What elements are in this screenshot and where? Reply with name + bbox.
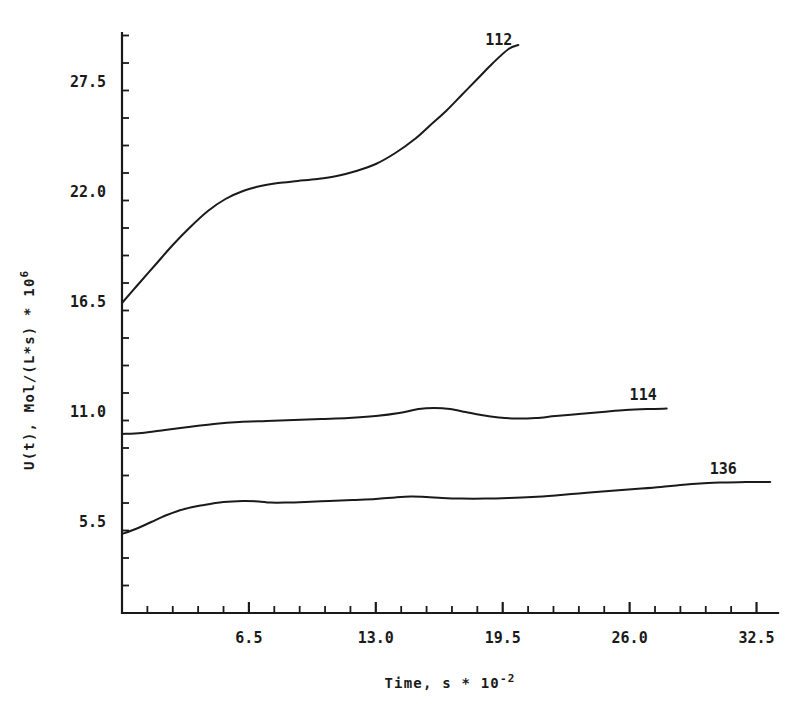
x-tick-label: 32.5	[738, 629, 774, 647]
data-series-group	[122, 45, 770, 534]
x-tick-label: 6.5	[235, 629, 262, 647]
x-axis-title-exponent: -2	[500, 672, 516, 685]
plot-axes	[122, 33, 778, 613]
svg-text:U(t), Mol/(L*s) * 106: U(t), Mol/(L*s) * 106	[18, 270, 37, 470]
y-tick-label: 27.5	[70, 73, 106, 91]
x-axis-title: Time, s * 10-2	[384, 672, 515, 691]
y-axis-title-base: U(t), Mol/(L*s) * 10	[21, 277, 37, 470]
svg-text:Time, s * 10-2: Time, s * 10-2	[384, 672, 515, 691]
y-axis-title: U(t), Mol/(L*s) * 106	[18, 270, 37, 470]
series-label-114: 114	[630, 386, 657, 404]
data-curve-114	[122, 408, 667, 434]
x-axis-tick-labels: 6.513.019.526.032.5	[235, 629, 774, 647]
x-axis-ticks	[122, 602, 757, 613]
x-tick-label: 13.0	[358, 629, 394, 647]
series-label-112: 112	[485, 31, 512, 49]
y-axis-title-exponent: 6	[18, 270, 31, 278]
y-tick-label: 16.5	[70, 293, 106, 311]
data-curve-112	[122, 45, 518, 303]
x-axis-title-base: Time, s * 10	[384, 675, 500, 691]
series-label-136: 136	[710, 460, 737, 478]
y-axis-tick-labels: 5.511.016.522.027.5	[70, 73, 106, 531]
data-curve-136	[122, 482, 770, 534]
x-tick-label: 26.0	[612, 629, 648, 647]
chart-figure: U(t), Mol/(L*s) * 106 Time, s * 10-2 5.5…	[0, 0, 802, 711]
y-tick-label: 5.5	[79, 513, 106, 531]
y-tick-label: 11.0	[70, 403, 106, 421]
x-tick-label: 19.5	[485, 629, 521, 647]
y-tick-label: 22.0	[70, 183, 106, 201]
